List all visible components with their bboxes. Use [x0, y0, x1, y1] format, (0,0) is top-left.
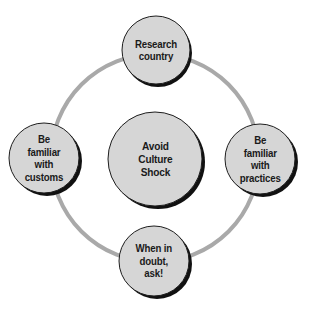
- node-when-in-doubt: When in doubt, ask!: [119, 226, 189, 296]
- node-label: Be familiar with practices: [240, 134, 281, 184]
- node-familiar-customs: Be familiar with customs: [9, 123, 79, 193]
- node-familiar-practices: Be familiar with practices: [225, 124, 295, 194]
- node-label: Research country: [135, 38, 177, 63]
- node-research-country: Research country: [122, 16, 190, 84]
- node-label: When in doubt, ask!: [136, 242, 172, 280]
- node-label: Be familiar with customs: [25, 133, 64, 183]
- node-center-avoid-culture-shock: Avoid Culture Shock: [108, 112, 202, 206]
- center-label: Avoid Culture Shock: [138, 140, 172, 179]
